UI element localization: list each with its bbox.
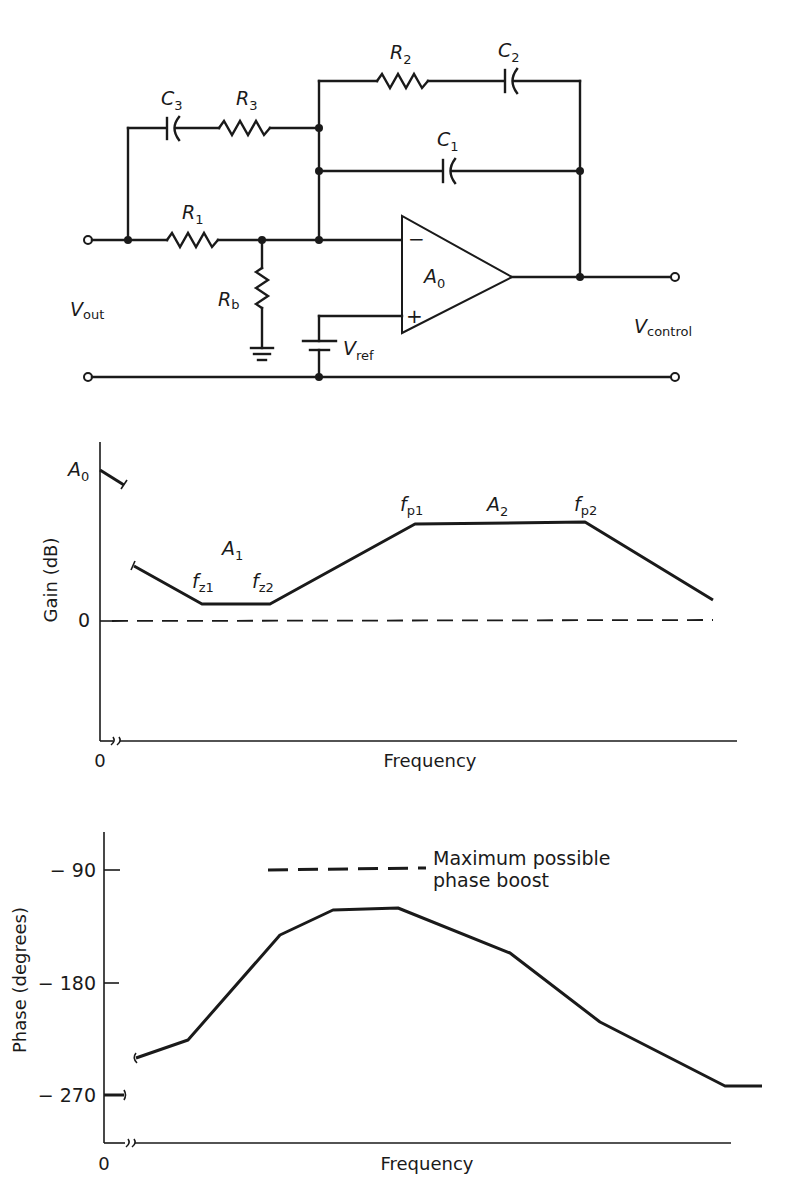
label-vref: Vref [343,337,374,363]
junction-dot [576,167,584,175]
resistor-r1 [167,233,218,247]
label-a1: A1 [220,537,243,563]
circuit-schematic: − + C3 R3 R2 C2 C1 R1 Rb A0 Vref Vout Vc… [70,39,692,381]
phase-tick-minus-180: − 180 [38,972,96,994]
axis-break-icon [126,1139,135,1147]
label-c1: C1 [437,128,459,154]
battery-vref-icon [303,341,336,350]
max-boost-label-line1: Maximum possible [433,847,610,869]
vcontrol-top-terminal [671,273,679,281]
ground-icon [251,348,273,360]
phase-x-label: Frequency [381,1153,474,1174]
label-fz1: fz1 [192,570,214,595]
zero-db-line [112,620,713,621]
phase-x-origin: 0 [98,1153,109,1174]
phase-tick-minus-270: − 270 [38,1084,96,1106]
junction-dot [315,373,323,381]
label-r2: R2 [390,41,411,67]
gain-a0-segment [100,470,124,485]
phase-chart: − 90 − 180 − 270 Maximum possible phase … [9,832,762,1174]
max-boost-label-line2: phase boost [433,869,549,891]
gain-y-label: Gain (dB) [40,538,61,623]
resistor-r2 [377,74,428,88]
gain-x-origin: 0 [94,750,105,771]
phase-curve [136,908,762,1086]
label-vout: Vout [70,298,104,322]
label-fp2: fp2 [574,493,597,518]
resistor-r3 [219,121,270,135]
resistor-rb [256,268,268,308]
figure: − + C3 R3 R2 C2 C1 R1 Rb A0 Vref Vout Vc… [0,0,796,1187]
gain-tick-0: 0 [78,609,90,631]
label-gain-a0: A0 [66,458,89,484]
phase-tick-minus-90: − 90 [50,859,96,881]
label-rb: Rb [218,288,239,312]
label-a2: A2 [485,493,508,519]
label-fp1: fp1 [400,493,423,518]
max-phase-boost-line [268,868,426,870]
opamp-plus-sign: + [406,304,423,328]
label-r3: R3 [236,87,257,113]
curve-break-icon [124,1090,126,1100]
opamp-minus-sign: − [408,227,425,251]
label-r1: R1 [182,201,203,227]
vcontrol-bottom-terminal [671,373,679,381]
gain-curve [134,522,713,604]
label-fz2: fz2 [252,570,274,595]
gain-chart: 0 A0 A1 fz1 fz2 fp1 A2 fp2 0 Frequency G… [40,442,737,771]
opamp-a0: − + [402,216,512,333]
label-c3: C3 [161,87,183,113]
phase-y-label: Phase (degrees) [9,907,30,1053]
label-c2: C2 [498,39,520,65]
label-vcontrol: Vcontrol [634,315,692,339]
junction-dot [576,273,584,281]
gain-x-label: Frequency [384,750,477,771]
